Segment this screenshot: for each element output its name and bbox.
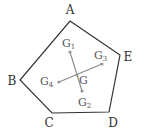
vertex-labels: AEDCB <box>8 3 133 130</box>
pentagon-abcde <box>20 21 120 113</box>
vertex-label-d: D <box>108 116 118 130</box>
point-g2 <box>80 89 83 92</box>
vertex-label-c: C <box>44 116 53 130</box>
point-labels: G1G2G3G4G <box>40 37 107 110</box>
vertex-label-e: E <box>124 50 133 64</box>
diagram-canvas: AEDCB G1G2G3G4G <box>0 0 141 138</box>
point-label-g: G <box>79 74 88 87</box>
point-label-g1: G1 <box>62 37 75 51</box>
point-g4 <box>57 80 60 83</box>
pentagon-centroid-diagram: AEDCB G1G2G3G4G <box>0 0 141 138</box>
point-label-g3: G3 <box>94 49 107 63</box>
point-label-g2: G2 <box>78 96 91 110</box>
vertex-label-a: A <box>65 3 75 17</box>
point-label-g4: G4 <box>40 75 54 89</box>
vertex-label-b: B <box>8 74 17 88</box>
